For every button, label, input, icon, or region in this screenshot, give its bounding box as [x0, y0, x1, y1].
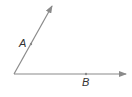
point-a-marker [30, 43, 32, 45]
point-b-label: B [82, 76, 89, 88]
point-a-label: A [18, 37, 26, 49]
angle-diagram: A B [0, 0, 132, 97]
point-b-marker [85, 73, 87, 75]
